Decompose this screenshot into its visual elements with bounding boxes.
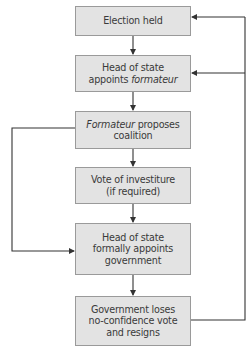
node-label: Head of state appoints formateur — [89, 62, 178, 85]
node-label: Vote of investiture (if required) — [91, 174, 175, 197]
node-label: Election held — [103, 15, 162, 27]
node-proposes-coalition: Formateur proposes coalition — [75, 111, 191, 149]
node-appoints-formateur: Head of state appoints formateur — [75, 55, 191, 92]
node-election-held: Election held — [75, 6, 191, 36]
node-government-loses-confidence: Government loses no-confidence vote and … — [75, 296, 191, 346]
node-vote-of-investiture: Vote of investiture (if required) — [75, 167, 191, 204]
node-label: Government loses no-confidence vote and … — [89, 304, 178, 339]
node-label: Formateur proposes coalition — [86, 119, 179, 142]
node-formally-appoints-government: Head of state formally appoints governme… — [75, 223, 191, 275]
node-label: Head of state formally appoints governme… — [93, 232, 173, 267]
